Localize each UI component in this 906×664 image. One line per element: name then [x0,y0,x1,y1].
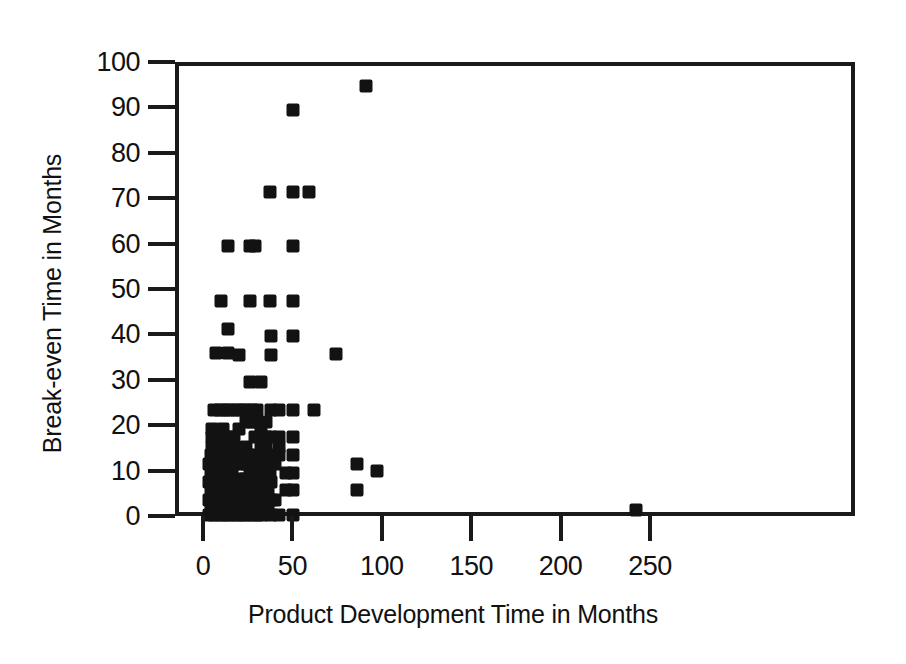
y-axis-tick-label: 90 [30,94,140,121]
x-axis-tick-label: 250 [590,551,710,581]
y-axis-tick-label: 70 [30,185,140,212]
scatter-point [265,330,278,343]
scatter-point [254,376,267,389]
scatter-point [286,185,299,198]
scatter-point [272,430,285,443]
scatter-point [360,80,373,93]
y-axis-tick [148,151,175,155]
y-axis-tick [148,332,175,336]
y-axis-tick [148,105,175,109]
scatter-points-layer [179,66,851,512]
scatter-point [279,467,292,480]
scatter-point [260,416,273,429]
scatter-point [260,479,273,492]
y-axis-tick [148,287,175,291]
scatter-point [263,295,276,308]
scatter-point [265,348,278,361]
scatter-point [286,104,299,117]
x-axis-tick [559,516,563,541]
x-axis-tick [380,516,384,541]
y-axis-tick-label: 100 [30,49,140,76]
x-axis-tick [469,516,473,541]
y-axis-tick [148,378,175,382]
x-axis-tick [290,516,294,541]
x-axis-tick [201,516,205,541]
y-axis-tick [148,514,175,518]
scatter-point [206,441,219,454]
scatter-point [272,403,285,416]
scatter-point [286,430,299,443]
scatter-point [215,295,228,308]
scatter-plot-figure: Break-even Time in Months 01020304050607… [0,0,906,664]
x-axis-tick [648,516,652,541]
scatter-point [251,403,264,416]
scatter-point [630,504,643,517]
scatter-point [329,347,342,360]
scatter-point [233,348,246,361]
scatter-point [243,498,256,511]
scatter-point [249,450,262,463]
scatter-point [209,346,222,359]
y-axis-tick [148,60,175,64]
scatter-point [286,449,299,462]
y-axis-tick-label: 50 [30,276,140,303]
scatter-point [268,493,281,506]
scatter-point [256,498,269,511]
y-axis-tick [148,469,175,473]
scatter-point [222,323,235,336]
scatter-point [286,330,299,343]
scatter-point [308,403,321,416]
scatter-point [286,240,299,253]
scatter-point [351,458,364,471]
scatter-point [217,454,230,467]
y-axis-tick-label: 20 [30,412,140,439]
scatter-point [217,423,230,436]
scatter-point [370,464,383,477]
plot-area [175,62,855,516]
scatter-point [302,185,315,198]
y-axis-tick-label: 10 [30,457,140,484]
scatter-point [351,484,364,497]
y-axis-tick [148,196,175,200]
y-axis-tick-label: 30 [30,366,140,393]
y-axis-tick-label: 0 [30,503,140,530]
scatter-point [249,240,262,253]
scatter-point [243,479,256,492]
y-axis-tick [148,423,175,427]
scatter-point [233,423,246,436]
scatter-point [286,295,299,308]
y-axis-tick [148,242,175,246]
scatter-point [272,508,285,521]
scatter-point [286,403,299,416]
scatter-point [222,240,235,253]
y-axis-tick-label: 60 [30,230,140,257]
scatter-point [227,479,240,492]
scatter-point [243,295,256,308]
x-axis-title: Product Development Time in Months [0,600,906,629]
scatter-point [263,185,276,198]
y-axis-tick-label: 40 [30,321,140,348]
y-axis-tick-label: 80 [30,139,140,166]
